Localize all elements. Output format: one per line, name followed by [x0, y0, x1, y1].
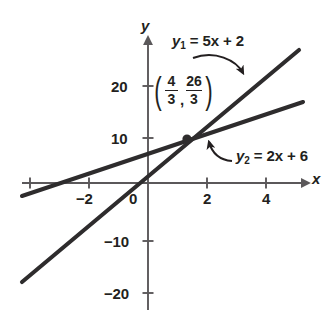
intersection-point-label: ( 4 3 , 26 3 ) — [152, 74, 215, 107]
x-axis-label: x — [312, 171, 320, 186]
fraction-y-numerator: 26 — [186, 74, 202, 89]
fraction-x-denominator: 3 — [168, 92, 176, 107]
x-tick-label-4: 4 — [262, 191, 270, 206]
fraction-y: 26 3 — [185, 74, 203, 107]
callout-arrow-y1 — [193, 55, 243, 73]
x-tick-label-0: 0 — [129, 191, 137, 206]
equation-y1-variable: y — [172, 32, 180, 49]
y-axis-label: y — [141, 18, 149, 33]
equation-label-y1: y1 = 5x + 2 — [172, 33, 244, 51]
equation-y2-variable: y — [236, 147, 244, 164]
right-paren: ) — [205, 75, 212, 107]
fraction-x-numerator: 4 — [168, 74, 176, 89]
callout-arrow-y2 — [209, 142, 232, 161]
left-paren: ( — [154, 75, 161, 107]
graph-figure: y x −2 0 2 4 20 10 −10 −20 y1 = 5x + 2 y… — [0, 0, 334, 314]
x-tick-label-neg2: −2 — [76, 191, 93, 206]
y-tick-label-20: 20 — [111, 79, 127, 94]
equation-y2-expression: = 2x + 6 — [250, 147, 308, 164]
y-tick-label-neg10: −10 — [104, 234, 129, 249]
fraction-x: 4 3 — [164, 74, 179, 107]
intersection-point-marker — [182, 134, 191, 143]
y-tick-label-neg20: −20 — [104, 286, 129, 301]
fraction-y-denominator: 3 — [190, 92, 198, 107]
equation-y1-expression: = 5x + 2 — [186, 32, 244, 49]
equation-label-y2: y2 = 2x + 6 — [236, 148, 308, 166]
x-tick-label-2: 2 — [203, 191, 211, 206]
y-tick-label-10: 10 — [111, 131, 127, 146]
